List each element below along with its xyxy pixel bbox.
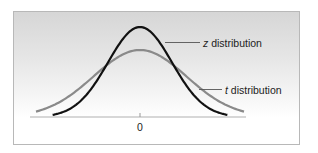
z-distribution-curve xyxy=(53,27,228,115)
z-label-text: distribution xyxy=(208,37,262,49)
t-distribution-curve xyxy=(36,50,244,112)
x-tick-label-zero: 0 xyxy=(137,121,143,133)
z-distribution-label: z distribution xyxy=(202,37,262,49)
t-label-text: distribution xyxy=(228,84,282,96)
distribution-plot: z distribution t distribution 0 xyxy=(0,0,318,153)
t-distribution-label: t distribution xyxy=(225,84,282,96)
